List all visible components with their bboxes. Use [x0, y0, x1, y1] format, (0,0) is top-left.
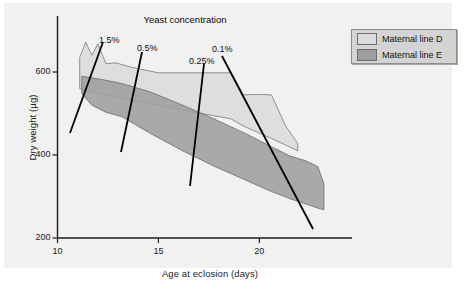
data-bands-layer [80, 42, 324, 210]
annotation-label-0-5: 0.5% [137, 43, 158, 53]
y-axis-title: Dry weight (µg) [27, 73, 38, 183]
legend-item-maternal-line-e: Maternal line E [357, 47, 456, 62]
legend-swatch-d [357, 33, 377, 45]
legend-swatch-e [357, 49, 377, 61]
y-tick-label-600: 600 [26, 66, 51, 76]
y-tick-label-200: 200 [26, 232, 51, 242]
chart-title: Yeast concentration [110, 14, 260, 25]
legend-item-maternal-line-d: Maternal line D [357, 31, 456, 46]
legend-label-e: Maternal line E [382, 50, 442, 60]
annotation-label-0-1: 0.1% [212, 44, 233, 54]
x-tick-label-15: 15 [146, 246, 170, 256]
x-tick-label-10: 10 [46, 246, 70, 256]
chart-legend: Maternal line D Maternal line E [351, 29, 457, 64]
annotation-label-1-5: 1.5% [99, 35, 120, 45]
x-axis-title: Age at eclosion (days) [100, 268, 320, 279]
figure-container: Yeast concentration Dry weight (µg) Age … [0, 0, 470, 289]
annotation-label-0-25: 0.25% [189, 56, 215, 66]
y-tick-label-400: 400 [26, 149, 51, 159]
legend-label-d: Maternal line D [382, 34, 443, 44]
x-tick-label-20: 20 [247, 246, 271, 256]
